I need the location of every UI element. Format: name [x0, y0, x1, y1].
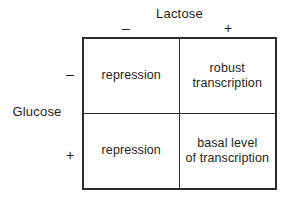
lac-operon-regulation-table: Lactose – + Glucose – + repression robus…: [0, 0, 293, 204]
cell-glucose-minus-lactose-plus: robust transcription: [180, 39, 276, 114]
cell-glucose-plus-lactose-plus: basal level of transcription: [180, 114, 276, 189]
row-level-plus: +: [62, 147, 78, 163]
cell-text: repression: [102, 143, 161, 158]
cell-text: repression: [102, 68, 161, 83]
cell-text: robust transcription: [193, 61, 262, 91]
cell-glucose-plus-lactose-minus: repression: [84, 114, 180, 189]
outcome-grid: repression robust transcription repressi…: [82, 37, 277, 190]
column-level-minus: –: [114, 20, 138, 36]
row-level-minus: –: [62, 66, 78, 82]
cell-glucose-minus-lactose-minus: repression: [84, 39, 180, 114]
column-axis-label-lactose: Lactose: [82, 6, 277, 21]
cell-text: basal level of transcription: [185, 136, 269, 166]
column-level-plus: +: [216, 20, 240, 36]
row-axis-label-glucose: Glucose: [4, 104, 70, 119]
